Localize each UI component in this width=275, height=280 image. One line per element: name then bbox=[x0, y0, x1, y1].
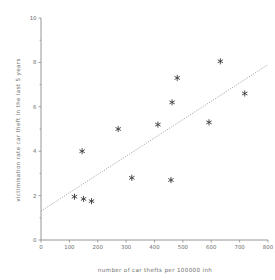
data-point-marker bbox=[129, 175, 134, 181]
data-points-group bbox=[72, 58, 248, 204]
x-tick-label: 0 bbox=[39, 244, 43, 250]
data-point-marker bbox=[155, 121, 160, 127]
x-tick-label: 400 bbox=[149, 244, 160, 250]
data-point-marker bbox=[218, 58, 223, 64]
x-axis-label: number of car thefts per 100000 inh bbox=[98, 267, 212, 274]
data-point-marker bbox=[89, 198, 94, 204]
y-tick-label: 6 bbox=[33, 104, 37, 110]
data-point-marker bbox=[81, 196, 86, 202]
data-point-marker bbox=[115, 126, 120, 132]
x-tick-label: 200 bbox=[93, 244, 104, 250]
x-axis-ticks: 0100200300400500600700800 bbox=[39, 240, 273, 250]
y-axis-label: victimisation rate car theft in the last… bbox=[15, 58, 22, 202]
x-tick-label: 100 bbox=[64, 244, 75, 250]
axes-group bbox=[41, 18, 268, 240]
x-tick-label: 800 bbox=[263, 244, 274, 250]
data-point-marker bbox=[168, 177, 173, 183]
trend-line-group bbox=[41, 65, 268, 212]
y-axis-ticks: 0246810 bbox=[30, 15, 41, 243]
y-tick-label: 8 bbox=[33, 59, 37, 65]
y-tick-label: 4 bbox=[33, 148, 37, 154]
y-tick-label: 2 bbox=[33, 193, 36, 199]
x-tick-label: 600 bbox=[206, 244, 217, 250]
data-point-marker bbox=[175, 75, 180, 81]
x-tick-label: 700 bbox=[234, 244, 245, 250]
x-tick-label: 300 bbox=[121, 244, 132, 250]
data-point-marker bbox=[206, 119, 211, 125]
y-tick-label: 10 bbox=[30, 15, 37, 21]
regression-line bbox=[41, 65, 268, 212]
data-point-marker bbox=[242, 90, 247, 96]
y-tick-label: 0 bbox=[33, 237, 37, 243]
plot-area: 0246810 0100200300400500600700800 number… bbox=[0, 0, 275, 280]
data-point-marker bbox=[169, 99, 174, 105]
x-tick-label: 500 bbox=[178, 244, 189, 250]
data-point-marker bbox=[72, 194, 77, 200]
scatter-chart: 0246810 0100200300400500600700800 number… bbox=[0, 0, 275, 280]
data-point-marker bbox=[79, 148, 84, 154]
